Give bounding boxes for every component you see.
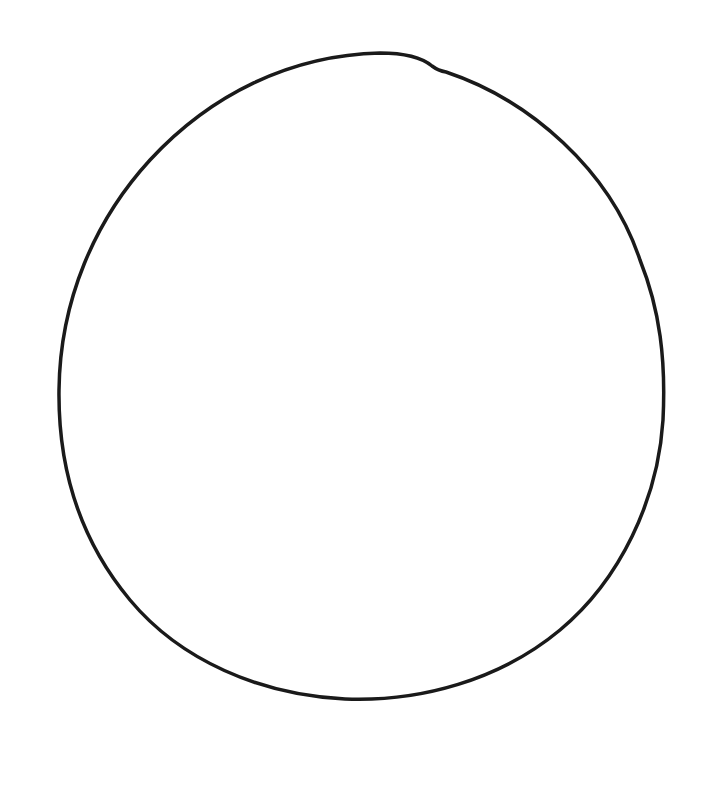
drawing-canvas: Hand-drawn circle [0,0,727,800]
hand-drawn-circle [0,0,727,800]
circle-outline [59,53,664,699]
